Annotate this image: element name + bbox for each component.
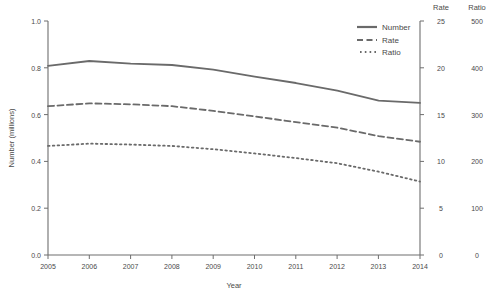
ratio-tick-label-500: 500 (471, 18, 483, 25)
left-axis-title: Number (millions) (7, 108, 16, 167)
ratio-tick-label-200: 200 (471, 158, 483, 165)
right-ratio-axis-title: Ratio (468, 3, 486, 12)
rate-tick-label-0: 0 (439, 252, 443, 259)
chart-svg: 1.0 0.8 0.6 0.4 0.2 0.0 Number (millions… (0, 0, 495, 297)
left-tick-label-0-4: 0.4 (31, 158, 41, 165)
left-tick-label-0-0: 0.0 (31, 252, 41, 259)
left-axis-ticks (44, 21, 48, 255)
x-tick-label-2005: 2005 (40, 263, 56, 270)
x-tick-label-2007: 2007 (123, 263, 139, 270)
legend-label-number: Number (382, 23, 411, 32)
x-tick-label-2014: 2014 (412, 263, 428, 270)
right-axis: Rate 25 20 15 10 5 0 Ratio 500 400 300 2… (420, 3, 486, 259)
x-tick-label-2008: 2008 (164, 263, 180, 270)
right-axis-ticks (420, 21, 424, 255)
left-axis: 1.0 0.8 0.6 0.4 0.2 0.0 Number (millions… (7, 18, 48, 259)
legend-label-ratio: Ratio (382, 48, 401, 57)
rate-tick-label-25: 25 (437, 18, 445, 25)
ratio-tick-label-300: 300 (471, 112, 483, 119)
series-line-number (48, 61, 420, 103)
rate-tick-label-5: 5 (439, 205, 443, 212)
left-tick-label-0-6: 0.6 (31, 112, 41, 119)
x-tick-label-2012: 2012 (329, 263, 345, 270)
bottom-axis-ticks (48, 255, 420, 259)
x-tick-label-2010: 2010 (247, 263, 263, 270)
legend-label-rate: Rate (382, 36, 399, 45)
x-tick-label-2011: 2011 (288, 263, 303, 270)
x-tick-label-2013: 2013 (371, 263, 387, 270)
rate-tick-label-20: 20 (437, 65, 445, 72)
rate-tick-label-15: 15 (437, 112, 445, 119)
left-tick-label-0-8: 0.8 (31, 65, 41, 72)
x-tick-label-2009: 2009 (205, 263, 221, 270)
x-axis-title: Year (226, 281, 242, 290)
chart-legend: Number Rate Ratio (357, 23, 411, 57)
chart-figure: 1.0 0.8 0.6 0.4 0.2 0.0 Number (millions… (0, 0, 495, 297)
left-tick-label-1-0: 1.0 (31, 18, 41, 25)
series-line-rate (48, 103, 420, 141)
series-line-ratio (48, 144, 420, 182)
left-tick-label-0-2: 0.2 (31, 205, 41, 212)
series-group (48, 61, 420, 182)
right-rate-axis-title: Rate (433, 3, 449, 12)
ratio-tick-label-400: 400 (471, 65, 483, 72)
ratio-tick-label-0: 0 (475, 252, 479, 259)
rate-tick-label-10: 10 (437, 158, 445, 165)
ratio-tick-label-100: 100 (471, 205, 483, 212)
x-tick-label-2006: 2006 (82, 263, 98, 270)
bottom-axis: 2005 2006 2007 2008 2009 2010 2011 2012 … (40, 255, 428, 290)
